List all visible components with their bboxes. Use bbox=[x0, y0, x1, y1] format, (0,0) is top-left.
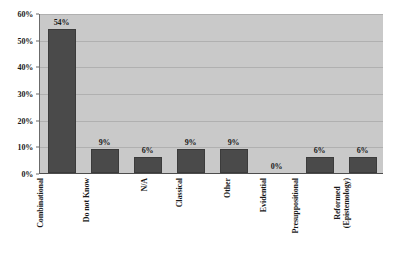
bar bbox=[48, 29, 76, 173]
bar bbox=[349, 157, 377, 173]
y-axis: 0%10%20%30%40%50%60% bbox=[0, 14, 36, 174]
x-axis-label-line: Presuppositional bbox=[291, 178, 300, 234]
bar-value-label: 9% bbox=[99, 138, 111, 147]
x-axis-label-text: N/A bbox=[140, 178, 149, 191]
bar-value-label: 9% bbox=[228, 138, 240, 147]
x-axis-label-line: Reformed bbox=[332, 178, 341, 228]
x-axis-label: Other bbox=[211, 176, 254, 259]
x-axis-label-line: Evidential bbox=[258, 178, 267, 212]
bar-group: 6% bbox=[341, 14, 384, 173]
y-axis-tick-label: 40% bbox=[18, 63, 33, 72]
x-axis-label: Do not Know bbox=[82, 176, 125, 259]
bar bbox=[177, 149, 205, 173]
y-axis-tick-label: 0% bbox=[21, 170, 33, 179]
bar-group: 54% bbox=[40, 14, 83, 173]
y-axis-tick-label: 50% bbox=[18, 36, 33, 45]
x-axis-label-line: Other bbox=[223, 178, 232, 198]
x-axis-label-line: (Epistemology) bbox=[341, 178, 350, 228]
bar-value-label: 6% bbox=[357, 146, 369, 155]
x-axis-label: Combinational bbox=[39, 176, 82, 259]
bar bbox=[134, 157, 162, 173]
bar-value-label: 0% bbox=[271, 162, 283, 171]
x-axis-label-text: Other bbox=[223, 178, 232, 198]
x-axis-label-text: Reformed(Epistemology) bbox=[332, 178, 350, 228]
x-axis-label-text: Do not Know bbox=[81, 178, 90, 222]
y-axis-tick-label: 60% bbox=[18, 10, 33, 19]
x-axis-label-text: Evidential bbox=[258, 178, 267, 212]
x-axis-label-text: Combinational bbox=[36, 178, 45, 228]
bar-group: 0% bbox=[255, 14, 298, 173]
plot-area: 54%9%6%9%9%0%6%6% bbox=[39, 14, 383, 174]
bar-group: 6% bbox=[126, 14, 169, 173]
bar-chart: 0%10%20%30%40%50%60% 54%9%6%9%9%0%6%6% C… bbox=[0, 0, 401, 259]
bar bbox=[91, 149, 119, 173]
x-axis-label-line: Classical bbox=[175, 178, 184, 207]
bars-layer: 54%9%6%9%9%0%6%6% bbox=[40, 14, 383, 173]
x-axis-label-line: Combinational bbox=[36, 178, 45, 228]
bar-value-label: 6% bbox=[142, 146, 154, 155]
bar-group: 9% bbox=[212, 14, 255, 173]
x-axis-label: Classical bbox=[168, 176, 211, 259]
y-axis-tick-label: 10% bbox=[18, 143, 33, 152]
bar-group: 9% bbox=[169, 14, 212, 173]
x-axis-label-text: Classical bbox=[175, 178, 184, 207]
bar-value-label: 6% bbox=[314, 146, 326, 155]
y-axis-tick-label: 20% bbox=[18, 116, 33, 125]
x-axis-label-text: Presuppositional bbox=[291, 178, 300, 234]
bar-group: 9% bbox=[83, 14, 126, 173]
y-axis-tick-label: 30% bbox=[18, 90, 33, 99]
bar bbox=[306, 157, 334, 173]
x-axis-label-line: N/A bbox=[140, 178, 149, 191]
x-axis-labels: CombinationalDo not KnowN/AClassicalOthe… bbox=[39, 176, 383, 259]
x-axis-label-line: Do not Know bbox=[81, 178, 90, 222]
x-axis-label: Reformed(Epistemology) bbox=[340, 176, 383, 259]
bar-value-label: 9% bbox=[185, 138, 197, 147]
bar-group: 6% bbox=[298, 14, 341, 173]
x-axis-label: N/A bbox=[125, 176, 168, 259]
bar-value-label: 54% bbox=[54, 18, 69, 27]
bar bbox=[220, 149, 248, 173]
